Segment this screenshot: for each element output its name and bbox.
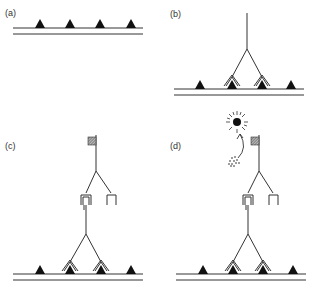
triangle-icon	[195, 80, 205, 89]
triangle-icon	[288, 265, 298, 274]
triangle-icon	[35, 19, 45, 28]
panel-c	[13, 135, 143, 280]
tagged-y-antibody-icon	[81, 135, 116, 205]
triangle-icon	[95, 19, 105, 28]
hatched-square-icon	[88, 137, 96, 145]
triangle-icon	[65, 19, 75, 28]
y-antibody-icon	[62, 205, 109, 271]
panel-b	[174, 13, 304, 95]
triangle-icon	[35, 265, 45, 274]
curved-arrow-icon	[237, 134, 244, 158]
panel-d	[176, 111, 306, 280]
y-antibody-icon	[225, 205, 271, 271]
starburst-icon	[226, 111, 248, 133]
triangle-icon	[286, 80, 296, 89]
panel-a	[13, 19, 143, 34]
hatched-square-icon	[251, 137, 259, 145]
tagged-y-antibody-icon	[243, 135, 278, 205]
diagram-canvas	[0, 0, 313, 288]
y-antibody-icon	[224, 13, 270, 86]
triangle-icon	[198, 265, 208, 274]
triangle-icon	[126, 265, 136, 274]
triangle-icon	[126, 19, 136, 28]
